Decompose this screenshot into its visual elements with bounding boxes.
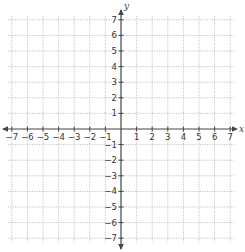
y-axis-label: y <box>123 1 130 11</box>
y-axis-up-arrow-icon <box>118 9 124 15</box>
x-axis-right-arrow-icon <box>232 126 238 132</box>
y-tick-label: −2 <box>104 155 117 165</box>
y-tick-label: 3 <box>112 77 117 87</box>
x-tick-label: −4 <box>52 132 65 142</box>
x-tick-label: −5 <box>37 132 50 142</box>
y-tick-label: 6 <box>112 30 117 40</box>
x-tick-label: 2 <box>149 132 154 142</box>
y-tick-label: −4 <box>104 186 117 196</box>
x-tick-label: 5 <box>196 132 201 142</box>
axes <box>2 9 238 250</box>
y-tick-label: −3 <box>104 171 117 181</box>
y-tick-label: −7 <box>104 233 117 243</box>
x-tick-label: 6 <box>212 132 217 142</box>
x-axis-left-arrow-icon <box>2 126 8 132</box>
x-tick-label: 1 <box>134 132 139 142</box>
y-tick-label: 1 <box>112 108 117 118</box>
x-tick-label: −3 <box>68 132 81 142</box>
y-tick-label: −6 <box>104 218 117 228</box>
x-tick-label: 4 <box>181 132 186 142</box>
y-tick-label: 7 <box>112 15 117 25</box>
x-tick-label: −2 <box>84 132 97 142</box>
y-tick-label: 4 <box>112 62 117 72</box>
x-axis-label: x <box>239 124 244 134</box>
y-tick-label: 2 <box>112 93 117 103</box>
y-axis-down-arrow-icon <box>118 244 124 250</box>
coordinate-plane: −7−6−5−4−3−2−11234567 7654321−1−2−3−4−5−… <box>0 0 245 252</box>
x-tick-label: 7 <box>227 132 232 142</box>
x-tick-label: −7 <box>6 132 19 142</box>
y-tick-label: 5 <box>112 46 117 56</box>
x-tick-label: 3 <box>165 132 170 142</box>
x-tick-label: −6 <box>21 132 34 142</box>
y-tick-label: −1 <box>104 140 117 150</box>
y-tick-label: −5 <box>104 202 117 212</box>
